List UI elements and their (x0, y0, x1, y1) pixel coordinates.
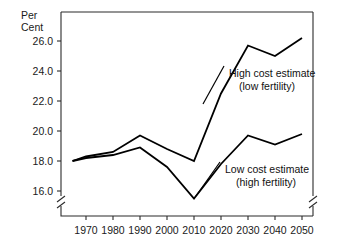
y-axis-title-line1: Per (21, 9, 38, 21)
x-tick-label-2040: 2040 (263, 224, 287, 236)
annotation-low-cost-estimate: Low cost estimate (high fertility) (225, 163, 309, 188)
y-tick-label-24: 24.0 (33, 65, 54, 77)
x-axis-ticks (86, 216, 302, 220)
x-tick-label-1980: 1980 (101, 224, 125, 236)
y-tick-label-22: 22.0 (33, 95, 54, 107)
y-axis-title: Per Cent (21, 9, 43, 33)
x-tick-label-2050: 2050 (290, 224, 314, 236)
x-tick-label-2030: 2030 (236, 224, 260, 236)
annotation-leaders (196, 66, 224, 196)
annotation-high-cost-estimate: High cost estimate (low fertility) (229, 67, 316, 92)
annotation-low-cost-line2: (high fertility) (236, 176, 296, 188)
axis-break-marks (57, 196, 317, 208)
annotation-high-cost-line2: (low fertility) (239, 80, 295, 92)
x-tick-label-2010: 2010 (182, 224, 206, 236)
y-tick-label-20: 20.0 (33, 125, 54, 137)
x-axis-tick-labels: 1970 1980 1990 2000 2010 2020 2030 2040 … (74, 224, 314, 236)
x-tick-label-1990: 1990 (128, 224, 152, 236)
y-axis-ticks (57, 41, 61, 191)
y-axis-title-line2: Cent (21, 21, 43, 33)
x-tick-label-2000: 2000 (155, 224, 179, 236)
y-tick-label-16: 16.0 (33, 185, 54, 197)
x-tick-label-2020: 2020 (209, 224, 233, 236)
y-tick-label-18: 18.0 (33, 155, 54, 167)
leader-line-low-cost (196, 162, 220, 196)
leader-line-high-cost (203, 66, 224, 104)
annotation-low-cost-line1: Low cost estimate (225, 163, 309, 175)
y-tick-label-26: 26.0 (33, 35, 54, 47)
y-axis-tick-labels: 26.0 24.0 22.0 20.0 18.0 16.0 (33, 35, 54, 197)
annotation-high-cost-line1: High cost estimate (229, 67, 316, 79)
line-chart: 26.0 24.0 22.0 20.0 18.0 16.0 Per Cent 1… (0, 0, 337, 245)
x-tick-label-1970: 1970 (74, 224, 98, 236)
frame-bottom (61, 206, 313, 216)
chart-container: 26.0 24.0 22.0 20.0 18.0 16.0 Per Cent 1… (0, 0, 337, 245)
